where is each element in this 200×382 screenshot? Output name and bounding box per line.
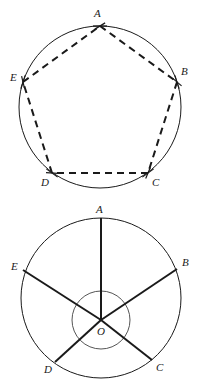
radius-od (55, 320, 101, 362)
vertex-label-b: B (181, 65, 188, 77)
radius-ob (101, 269, 177, 320)
pentagon-sides (23, 26, 177, 173)
center-label-o: O (97, 325, 105, 337)
pentagon-construction-figure: A B C D E A B C D E O (0, 0, 200, 382)
radius-oe (23, 270, 101, 320)
tick-mark-d (46, 173, 58, 174)
vertex-label-c: C (156, 361, 164, 373)
pentagon-side-ea (23, 26, 100, 82)
pentagon-side-bc (148, 82, 177, 173)
diagram-central-angles: A B C D E O (0, 195, 200, 382)
vertex-label-a: A (93, 7, 101, 19)
vertex-label-d: D (40, 176, 49, 188)
pentagon-side-ab (100, 26, 177, 82)
vertex-label-a: A (95, 203, 103, 215)
vertex-label-c: C (152, 176, 160, 188)
vertex-label-e: E (10, 260, 18, 272)
circumcircle (19, 26, 181, 188)
pentagon-side-de (23, 82, 52, 173)
radius-oc (101, 320, 152, 360)
construction-tick-marks (21, 23, 182, 179)
diagram-inscribed-pentagon: A B C D E (0, 0, 200, 195)
vertex-label-d: D (43, 363, 52, 375)
vertex-label-e: E (9, 71, 17, 83)
vertex-label-b: B (182, 256, 189, 268)
